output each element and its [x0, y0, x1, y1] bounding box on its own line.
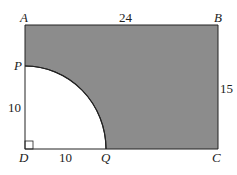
right-angle-marker — [25, 141, 33, 149]
length-dq: 10 — [59, 150, 72, 165]
geometry-diagram: A B C D P Q 24 15 10 10 — [0, 0, 237, 175]
shaded-region — [25, 25, 218, 149]
label-d: D — [18, 150, 29, 165]
length-dp: 10 — [8, 100, 21, 115]
label-b: B — [214, 10, 222, 25]
label-p: P — [13, 58, 22, 73]
length-bc: 15 — [220, 81, 233, 96]
label-c: C — [212, 150, 221, 165]
label-q: Q — [101, 150, 111, 165]
length-ab: 24 — [119, 10, 133, 25]
label-a: A — [19, 10, 28, 25]
